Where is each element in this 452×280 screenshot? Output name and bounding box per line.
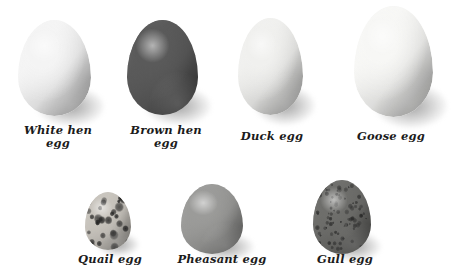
egg-label-white-hen: White hen egg xyxy=(8,124,108,150)
egg-body-duck xyxy=(238,18,303,115)
egg-label-brown-hen: Brown hen egg xyxy=(116,124,216,150)
egg-label-gull: Gull egg xyxy=(295,253,395,266)
egg-highlight-goose xyxy=(354,6,433,117)
egg-body-brown-hen xyxy=(127,20,198,115)
egg-body-quail xyxy=(85,192,131,250)
egg-item-duck xyxy=(238,18,303,115)
egg-body-pheasant xyxy=(181,184,243,254)
egg-label-pheasant: Pheasant egg xyxy=(162,253,282,266)
egg-item-pheasant xyxy=(181,184,243,254)
egg-highlight-gull xyxy=(313,180,371,254)
egg-highlight-quail xyxy=(85,192,131,250)
egg-highlight-duck xyxy=(238,18,303,115)
egg-item-quail xyxy=(85,192,131,250)
egg-item-white-hen xyxy=(18,20,91,116)
egg-label-quail: Quail egg xyxy=(60,253,160,266)
egg-item-brown-hen xyxy=(127,20,198,115)
egg-highlight-brown-hen xyxy=(127,20,198,115)
egg-label-duck: Duck egg xyxy=(222,130,322,143)
egg-highlight-white-hen xyxy=(18,20,91,116)
egg-body-gull xyxy=(313,180,371,254)
egg-item-goose xyxy=(354,6,433,117)
egg-label-goose: Goose egg xyxy=(338,130,444,143)
egg-item-gull xyxy=(313,180,371,254)
egg-comparison-figure: White hen eggBrown hen eggDuck eggGoose … xyxy=(0,0,452,280)
egg-highlight-pheasant xyxy=(181,184,243,254)
egg-body-white-hen xyxy=(18,20,91,116)
egg-body-goose xyxy=(354,6,433,117)
